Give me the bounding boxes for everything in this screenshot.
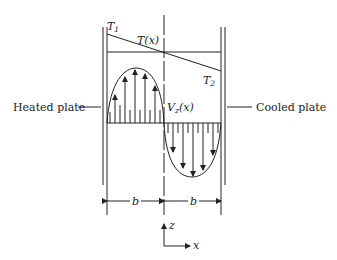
- z-axis-label: z: [168, 219, 175, 232]
- b-right-label: b: [190, 195, 197, 208]
- cooled-plate-label: Cooled plate: [256, 101, 326, 114]
- convection-diagram: Heated plate Cooled plate T1 T(x) T2 Vz(…: [0, 0, 337, 260]
- vz-label: Vz(x): [167, 101, 194, 115]
- b-left-label: b: [132, 195, 139, 208]
- x-axis-label: x: [193, 239, 200, 252]
- heated-plate-label: Heated plate: [13, 101, 85, 114]
- t1-label: T1: [107, 20, 119, 34]
- tx-label: T(x): [137, 34, 159, 47]
- t2-label: T2: [203, 74, 215, 88]
